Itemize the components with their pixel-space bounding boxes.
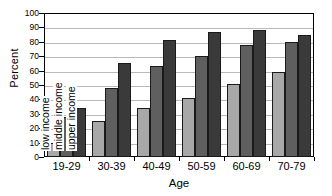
x-axis-title: Age	[44, 177, 314, 189]
y-axis-tick-mark	[39, 157, 44, 158]
x-axis-tick-mark	[269, 157, 270, 161]
x-axis-tick-mark	[179, 157, 180, 161]
x-axis-tick-label-50-59: 50-59	[179, 160, 224, 172]
x-axis-tick-mark	[314, 157, 315, 161]
bar-group-30-39	[89, 13, 134, 157]
bar-group-19-29: low incomemiddle incomeupper income	[44, 13, 89, 157]
y-axis-tick-label: 30	[0, 110, 44, 119]
bar-group-40-49	[134, 13, 179, 157]
legend-label-middle-income: middle income	[53, 81, 64, 151]
x-axis-tick-label-60-69: 60-69	[224, 160, 269, 172]
x-axis-tick-label-30-39: 30-39	[89, 160, 134, 172]
bar-middle-income-70-79	[285, 42, 298, 157]
bar-middle-income-60-69	[240, 45, 253, 157]
y-axis-tick-label: 100	[0, 9, 44, 18]
y-axis-tick-label: 10	[0, 139, 44, 148]
x-axis-tick-label-70-79: 70-79	[269, 160, 314, 172]
legend-label-upper-income: upper income	[66, 85, 77, 151]
bar-low-income-30-39	[92, 121, 105, 157]
y-axis-tick-label: 60	[0, 67, 44, 76]
legend-label-low-income: low income	[40, 96, 51, 151]
x-axis-tick-label-40-49: 40-49	[134, 160, 179, 172]
y-axis-tick-label: 40	[0, 95, 44, 104]
bar-middle-income-30-39	[105, 88, 118, 157]
y-axis-tick-label: 90	[0, 23, 44, 32]
y-axis-tick-label: 70	[0, 52, 44, 61]
bar-middle-income-50-59	[195, 56, 208, 157]
bar-groups: low incomemiddle incomeupper income	[44, 13, 314, 157]
bar-low-income-40-49	[137, 108, 150, 157]
y-axis-tick-label: 0	[0, 153, 44, 162]
bar-upper-income-60-69	[253, 30, 266, 157]
x-axis-tick-mark	[89, 157, 90, 161]
bar-chart: Percent 0102030405060708090100 low incom…	[0, 0, 332, 196]
bar-middle-income-40-49	[150, 66, 163, 157]
bar-low-income-50-59	[182, 98, 195, 157]
bar-low-income-70-79	[272, 72, 285, 157]
bar-upper-income-30-39	[118, 63, 131, 157]
x-axis-tick-mark	[224, 157, 225, 161]
bar-upper-income-40-49	[163, 40, 176, 157]
bar-group-50-59	[179, 13, 224, 157]
x-axis-tick-labels: 19-2930-3940-4950-5960-6970-79	[44, 160, 314, 172]
bar-group-70-79	[269, 13, 314, 157]
x-axis-tick-mark	[134, 157, 135, 161]
y-axis-tick-label: 50	[0, 81, 44, 90]
bar-low-income-60-69	[227, 84, 240, 157]
x-axis-tick-label-19-29: 19-29	[44, 160, 89, 172]
y-axis-tick-label: 80	[0, 38, 44, 47]
bar-upper-income-50-59	[208, 32, 221, 157]
bar-upper-income-70-79	[298, 35, 311, 157]
bar-group-60-69	[224, 13, 269, 157]
y-axis-tick-label: 20	[0, 124, 44, 133]
